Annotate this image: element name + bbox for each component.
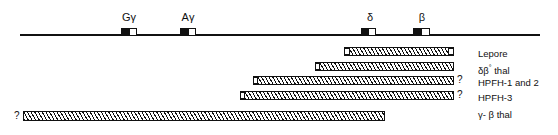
gene-box-g-gamma	[121, 28, 137, 36]
delta-beta-text: δβ	[478, 65, 489, 76]
deletion-bar-hpfh-1-and-2	[253, 76, 454, 85]
uncertain-breakpoint-marker-hpfh-3: ?	[457, 89, 463, 100]
deletion-bar-delta-beta-zero-thal	[315, 62, 454, 71]
deletion-bar-hpfh-3	[240, 91, 454, 100]
deletion-cap-left	[315, 63, 320, 70]
deletion-cap-left	[344, 48, 350, 55]
gene-label-delta: δ	[355, 11, 385, 23]
deletion-label-delta-beta-zero-thal: δβ° thal	[478, 62, 510, 76]
gene-label-g-gamma: Gγ	[113, 11, 145, 23]
uncertain-breakpoint-marker-gamma-beta-thal: ?	[14, 110, 20, 121]
deletion-label-hpfh-1-and-2: HPFH-1 and 2	[478, 77, 539, 88]
deletion-cap-left	[253, 77, 258, 84]
gene-label-a-gamma: Aγ	[172, 11, 204, 23]
deletion-bar-lepore	[344, 47, 454, 56]
deletion-label-gamma-beta-thal: γ- β thal	[478, 109, 512, 120]
gene-box-beta	[413, 28, 430, 36]
deletion-label-hpfh-3: HPFH-3	[478, 92, 512, 103]
deletion-cap-right	[448, 48, 454, 55]
gene-deletion-map-figure: Gγ Aγ δ β Lepore δβ° thal ? HPFH-1 and 2…	[0, 0, 558, 135]
deletion-cap-left	[240, 92, 245, 99]
thal-text: thal	[492, 65, 510, 76]
gene-box-a-gamma	[180, 28, 196, 36]
locus-axis-line	[20, 34, 540, 36]
deletion-bar-gamma-beta-thal	[23, 111, 385, 121]
deletion-label-lepore: Lepore	[478, 48, 508, 59]
gene-box-delta	[361, 28, 376, 36]
uncertain-breakpoint-marker-hpfh-1-and-2: ?	[457, 74, 463, 85]
gene-label-beta: β	[407, 11, 437, 23]
